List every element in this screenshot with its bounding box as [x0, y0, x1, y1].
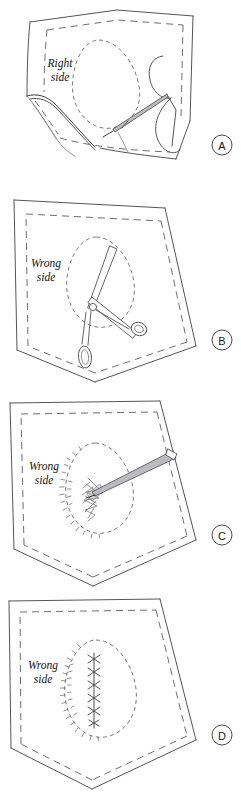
panel-b-fabric-fill [14, 200, 196, 382]
panel-d-label-line1: Wrong [28, 659, 58, 672]
panel-b-letter-badge: B [212, 330, 232, 350]
panel-a-fabric-fill [27, 10, 193, 160]
panel-c-label-line2: side [35, 474, 54, 486]
panel-c-letter: C [218, 530, 226, 542]
panel-c-label-line1: Wrong [29, 460, 59, 473]
panel-c-letter-badge: C [212, 525, 232, 545]
panel-b-letter: B [218, 335, 226, 347]
panel-d-label-line2: side [34, 673, 53, 685]
panel-b-label-line1: Wrong [31, 257, 61, 270]
panel-c-fabric-fill [10, 401, 196, 586]
panel-b-label-line2: side [37, 271, 56, 283]
panel-a-label-line2: side [51, 71, 70, 83]
sewing-diagram-root: Right side A [0, 0, 241, 797]
panel-a-fold-shade-1 [33, 104, 56, 138]
panel-b-scissor-pivot [89, 303, 96, 310]
panel-a: Right side A [27, 10, 232, 160]
panel-d: Wrong side D [9, 599, 232, 789]
panel-b: Wrong side B [14, 200, 232, 382]
panel-d-letter: D [218, 730, 226, 742]
panel-d-letter-badge: D [212, 725, 232, 745]
panel-c: Wrong side C [10, 401, 232, 586]
panel-d-fabric-fill [9, 599, 196, 789]
panel-a-label-line1: Right [47, 57, 74, 70]
panel-a-letter-badge: A [212, 135, 232, 155]
diagram-canvas: Right side A [0, 0, 241, 797]
panel-a-letter: A [218, 140, 226, 152]
